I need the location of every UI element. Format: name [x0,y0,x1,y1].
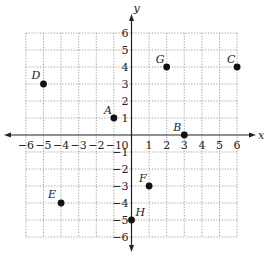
x-tick-label: 5 [216,139,223,152]
y-tick-label: 2 [122,95,129,108]
point-a: A [103,104,117,121]
x-tick-label: −3 [71,139,87,152]
x-tick-label: −2 [88,139,104,152]
point-h: H [128,206,145,223]
y-axis-top-arrow-icon [129,14,134,21]
origin-label: 0 [122,139,129,152]
point-label: D [31,69,41,82]
point-e: E [47,188,64,206]
point-label: F [138,172,147,185]
y-tick-label: 4 [122,61,129,74]
point-g: G [156,53,170,70]
point-f: F [138,172,152,189]
point-label: H [135,206,146,219]
x-axis-right-arrow-icon [249,133,256,138]
point-dot [40,81,47,88]
point-dot [58,200,65,207]
x-tick-label: 4 [198,139,205,152]
x-tick-label: 1 [146,139,153,152]
point-label: E [47,188,56,201]
y-tick-label: 3 [122,78,129,91]
y-tick-label: −4 [112,197,128,210]
x-axis-label: x [258,129,265,142]
x-tick-label: −6 [18,139,34,152]
x-tick-label: −5 [35,139,51,152]
point-dot [128,217,135,224]
y-tick-label: −2 [112,163,128,176]
y-tick-label: 5 [122,44,129,57]
y-tick-label: −5 [112,214,128,227]
x-tick-label: 3 [181,139,188,152]
y-tick-label: 1 [122,112,129,125]
point-d: D [31,69,47,87]
y-axis-bottom-arrow-icon [129,245,134,252]
point-dot [181,132,188,139]
point-label: C [227,53,236,66]
y-tick-label: −3 [112,180,128,193]
point-label: B [172,121,181,134]
y-axis-label: y [133,2,141,15]
x-tick-label: −4 [53,139,69,152]
point-label: G [156,53,165,66]
point-c: C [227,53,240,70]
x-axis-left-arrow-icon [4,133,11,138]
x-tick-label: 6 [234,139,241,152]
point-label: A [103,104,112,117]
coordinate-plane: xy −6−5−4−3−2−1123456654321−1−2−3−4−5−60… [0,0,266,257]
y-tick-label: 6 [122,27,129,40]
y-tick-label: −6 [112,231,128,244]
point-b: B [172,121,187,138]
x-tick-label: 2 [163,139,170,152]
